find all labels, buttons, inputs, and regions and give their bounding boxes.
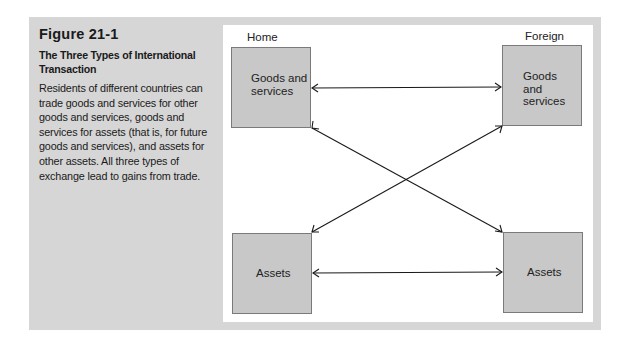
exchange-arrows xyxy=(0,0,628,346)
